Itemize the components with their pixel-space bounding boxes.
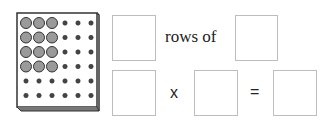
hole [89, 35, 93, 39]
hole [89, 93, 93, 97]
times-sign: x [170, 84, 178, 102]
hole [24, 79, 28, 83]
peg [34, 32, 45, 43]
hole [63, 35, 67, 39]
hole [63, 21, 67, 25]
hole [63, 50, 67, 54]
peg [34, 61, 45, 72]
hole [89, 50, 93, 54]
hole [37, 93, 41, 97]
peg [47, 18, 58, 29]
factor1-box[interactable] [112, 70, 156, 116]
peg-board [15, 11, 101, 113]
peg [34, 47, 45, 58]
peg [34, 18, 45, 29]
hole [63, 64, 67, 68]
hole [50, 79, 54, 83]
rows-of-label: rows of [165, 27, 216, 47]
hole [76, 93, 80, 97]
hole [89, 21, 93, 25]
hole [50, 93, 54, 97]
peg [47, 47, 58, 58]
peg-board-icon [15, 11, 101, 113]
peg [47, 61, 58, 72]
hole [37, 79, 41, 83]
hole [63, 79, 67, 83]
hole [89, 64, 93, 68]
hole [89, 79, 93, 83]
factor2-box[interactable] [194, 70, 238, 116]
hole [76, 79, 80, 83]
hole [24, 93, 28, 97]
rows-count-box[interactable] [112, 15, 156, 61]
peg [21, 47, 32, 58]
equals-sign: = [250, 83, 259, 101]
peg [21, 18, 32, 29]
hole [76, 64, 80, 68]
per-row-box[interactable] [235, 15, 278, 61]
hole [63, 93, 67, 97]
peg [21, 32, 32, 43]
hole [76, 35, 80, 39]
hole [76, 21, 80, 25]
peg [47, 32, 58, 43]
product-box[interactable] [273, 70, 317, 116]
hole [76, 50, 80, 54]
peg [21, 61, 32, 72]
